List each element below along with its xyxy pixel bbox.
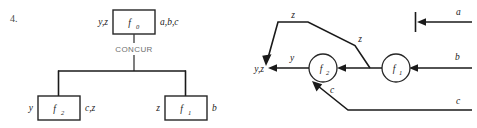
f1-subscript: 1	[399, 69, 402, 76]
input-wire-c	[318, 86, 472, 110]
edge-label-z-diagonal: z	[357, 34, 362, 44]
figure-canvas: 4. f 0 y,z a,b,c CONCUR	[0, 0, 477, 128]
f1-circle	[382, 54, 410, 82]
root-left-label: y,z	[97, 17, 108, 27]
child-1-right-label: b	[212, 103, 217, 113]
tree-node-child-0: f 2 y c,z	[28, 96, 96, 120]
edge-label-y: y	[289, 53, 295, 63]
child-0-right-label: c,z	[85, 103, 96, 113]
tree-node-child-1: f 1 z b	[155, 96, 217, 120]
item-number: 4.	[10, 13, 18, 24]
arrowhead-a	[417, 18, 426, 25]
child-1-node-subscript: 1	[188, 109, 191, 116]
child-0-left-label: y	[28, 103, 34, 113]
tree-node-root: f 0 y,z a,b,c	[97, 10, 179, 34]
diagram-svg: 4. f 0 y,z a,b,c CONCUR	[0, 0, 477, 128]
root-node-box	[113, 10, 155, 34]
arrowhead-into-f2	[337, 64, 346, 71]
network-node-f2: f 2	[309, 54, 337, 82]
arrowhead-c-into-f2	[312, 81, 322, 92]
input-label-b: b	[455, 52, 460, 62]
input-label-c: c	[456, 96, 461, 106]
edge-label-c: c	[330, 85, 335, 95]
child-1-node-box	[165, 96, 207, 120]
network-node-f1: f 1	[382, 54, 410, 82]
output-label-yz: y,z	[253, 64, 264, 74]
edge-label-z-top: z	[290, 10, 295, 20]
root-right-label: a,b,c	[160, 17, 179, 27]
arrowhead-output	[268, 64, 277, 71]
child-0-node-box	[38, 96, 80, 120]
child-1-left-label: z	[155, 103, 160, 113]
dataflow-network: b f 1 f 2 y,z y z	[253, 7, 472, 110]
operator-label: CONCUR	[115, 45, 153, 54]
f2-circle	[309, 54, 337, 82]
input-label-a: a	[456, 7, 461, 17]
concur-tree: f 0 y,z a,b,c CONCUR f 2 y	[28, 10, 217, 120]
